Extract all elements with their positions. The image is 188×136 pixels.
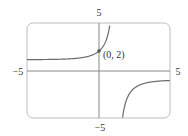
point-marker [97,49,101,53]
curve-right-branch [123,80,170,117]
x-max-label: 5 [176,66,181,77]
y-max-label: 5 [97,7,102,18]
y-min-label: −5 [95,122,106,133]
function-graph: 5 −5 −5 5 (0, 2) [0,0,188,136]
point-label: (0, 2) [103,49,125,61]
curve-left-branch [27,26,110,60]
x-min-label: −5 [13,66,24,77]
